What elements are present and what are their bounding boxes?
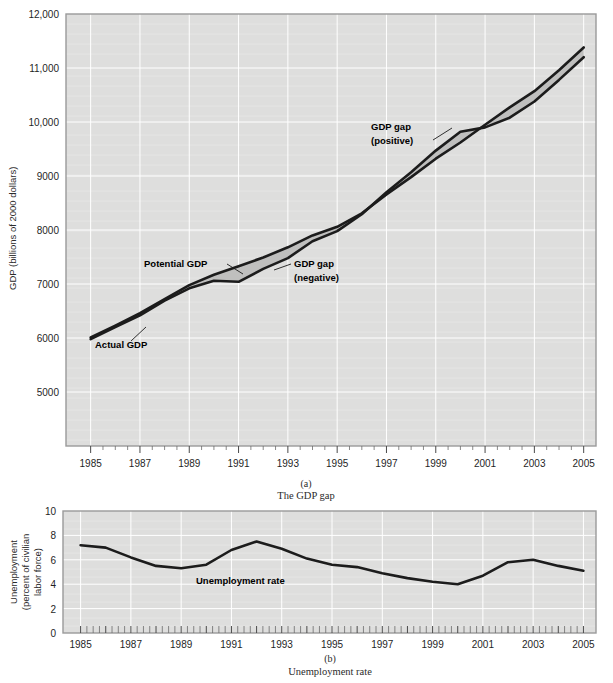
x-axis-tick-labels-b: 1985198719891991199319951997199920012003… [69,639,595,650]
gdp-gap-chart: 12,00011,00010,00090008000700060005000 G… [0,0,613,500]
x-tick-label-b: 2003 [522,639,545,650]
panel-gdp-gap: 12,00011,00010,00090008000700060005000 G… [0,0,613,500]
figure-gdp-gap-and-unemployment: 12,00011,00010,00090008000700060005000 G… [0,0,613,683]
x-tick-label-a: 2001 [474,458,497,469]
annotation-potential-gdp: Potential GDP [144,258,208,269]
annotation-gdp-gap-negative-line2: (negative) [294,272,339,283]
caption-letter-b: (b) [324,653,336,665]
annotation-gdp-gap-positive-line1: GDP gap [371,121,411,132]
x-tick-label-b: 2001 [472,639,495,650]
y-tick-label-a: 9000 [37,171,60,182]
x-tick-label-b: 1985 [69,639,92,650]
y-tick-label-a: 7000 [37,279,60,290]
x-tick-label-b: 1991 [220,639,243,650]
y-tick-label-b: 4 [50,579,56,590]
y-tick-label-a: 12,000 [28,9,59,20]
y-axis-tick-labels-a: 12,00011,00010,00090008000700060005000 [28,9,59,398]
y-tick-label-b: 8 [50,530,56,541]
annotation-unemployment-rate: Unemployment rate [196,575,285,586]
panel-unemployment-rate: 0246810 Unemployment (percent of civilia… [0,495,613,683]
annotation-actual-gdp: Actual GDP [95,339,148,350]
y-tick-label-b: 6 [50,555,56,566]
x-tick-label-b: 1987 [120,639,143,650]
y-tick-label-a: 11,000 [29,63,59,74]
unemployment-rate-chart: 0246810 Unemployment (percent of civilia… [0,495,613,683]
y-axis-tick-labels-b: 0246810 [45,506,57,639]
x-tick-label-b: 1997 [371,639,394,650]
x-tick-label-a: 2003 [523,458,546,469]
y-tick-label-b: 2 [50,604,56,615]
annotation-gdp-gap-positive-line2: (positive) [371,135,413,146]
x-tick-label-a: 2005 [573,458,596,469]
y-axis-title-b-line1: Unemployment [8,540,19,604]
y-axis-title-b-line2: (percent of civilian [20,534,31,611]
x-tick-label-a: 1985 [80,458,103,469]
y-axis-title-b-line3: labor force) [32,548,43,596]
x-tick-label-a: 1999 [425,458,448,469]
x-tick-label-b: 1989 [170,639,193,650]
y-tick-label-a: 10,000 [28,117,59,128]
x-axis-ticks-b [81,626,584,633]
x-tick-label-a: 1991 [227,458,250,469]
x-tick-label-a: 1995 [326,458,349,469]
y-tick-label-a: 8000 [37,225,60,236]
x-tick-label-a: 1997 [375,458,398,469]
y-tick-label-a: 6000 [37,333,60,344]
x-tick-label-b: 1999 [421,639,444,650]
caption-text-b: Unemployment rate [288,666,372,677]
x-axis-ticks-a [91,446,584,453]
y-tick-label-b: 10 [45,506,57,517]
x-tick-label-b: 1993 [271,639,294,650]
x-tick-label-a: 1993 [277,458,300,469]
y-tick-label-a: 5000 [37,387,60,398]
x-tick-label-a: 1989 [178,458,201,469]
annotation-gdp-gap-negative-line1: GDP gap [294,258,334,269]
y-tick-label-b: 0 [50,628,56,639]
x-axis-tick-labels-a: 1985198719891991199319951997199920012003… [80,458,596,469]
x-tick-label-b: 2005 [572,639,595,650]
x-tick-label-a: 1987 [129,458,152,469]
caption-letter-a: (a) [300,478,311,490]
x-tick-label-b: 1995 [321,639,344,650]
y-axis-title-a: GDP (billions of 2000 dollars) [7,167,18,290]
